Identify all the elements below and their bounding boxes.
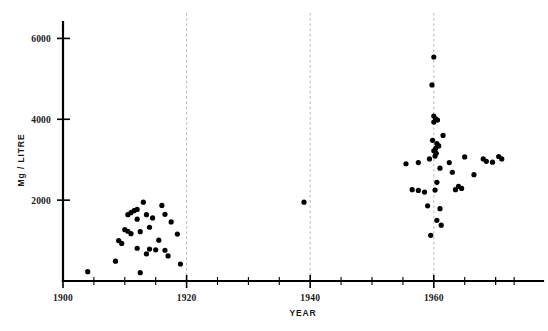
data-point	[440, 133, 445, 138]
data-point	[432, 187, 437, 192]
data-point	[434, 180, 439, 185]
data-point	[416, 160, 421, 165]
y-tick-label-2000: 2000	[31, 196, 51, 206]
data-point	[135, 246, 140, 251]
axes-lines-group	[63, 22, 543, 281]
data-point	[175, 232, 180, 237]
data-point	[162, 248, 167, 253]
x-tick-label-1960: 1960	[424, 293, 444, 303]
data-point	[147, 246, 152, 251]
data-points-group	[85, 54, 504, 275]
y-tick-label-6000: 6000	[31, 34, 51, 44]
data-point	[428, 233, 433, 238]
x-axis-tick-labels-group: 1900192019401960	[53, 293, 444, 303]
data-point	[125, 229, 130, 234]
data-point	[459, 186, 464, 191]
y-axis-title: Mg / LITRE	[16, 134, 26, 187]
data-point	[431, 120, 436, 125]
data-point	[447, 160, 452, 165]
data-point	[471, 172, 476, 177]
x-tick-label-1940: 1940	[300, 293, 320, 303]
data-point	[135, 217, 140, 222]
plot-canvas: 1900192019401960 200040006000 YEAR Mg / …	[0, 0, 548, 331]
data-point	[410, 187, 415, 192]
data-point	[159, 203, 164, 208]
data-point	[165, 253, 170, 258]
data-point	[138, 270, 143, 275]
data-point	[437, 166, 442, 171]
data-point	[85, 269, 90, 274]
data-point	[178, 261, 183, 266]
scatter-plot-figure: 1900192019401960 200040006000 YEAR Mg / …	[0, 0, 548, 331]
data-point	[434, 218, 439, 223]
data-point	[141, 200, 146, 205]
data-point	[113, 259, 118, 264]
data-point	[431, 54, 436, 59]
data-point	[425, 203, 430, 208]
gridlines-group	[187, 13, 434, 281]
data-point	[125, 212, 130, 217]
data-point	[422, 189, 427, 194]
data-point	[450, 170, 455, 175]
data-point	[427, 156, 432, 161]
data-point	[153, 247, 158, 252]
data-point	[430, 138, 435, 143]
data-point	[144, 212, 149, 217]
data-point	[416, 188, 421, 193]
data-point	[147, 225, 152, 230]
data-point	[162, 212, 167, 217]
data-point	[150, 215, 155, 220]
data-point	[116, 238, 121, 243]
data-point	[138, 229, 143, 234]
data-point	[453, 187, 458, 192]
x-tick-label-1920: 1920	[177, 293, 197, 303]
data-point	[432, 153, 437, 158]
data-point	[439, 223, 444, 228]
data-point	[301, 200, 306, 205]
x-axis-title: YEAR	[289, 308, 316, 318]
y-axis-tick-labels-group: 200040006000	[31, 34, 51, 206]
y-tick-label-4000: 4000	[31, 115, 51, 125]
data-point	[403, 161, 408, 166]
data-point	[490, 160, 495, 165]
data-point	[499, 156, 504, 161]
data-point	[462, 154, 467, 159]
data-point	[156, 238, 161, 243]
data-point	[169, 219, 174, 224]
data-point	[484, 159, 489, 164]
data-point	[144, 251, 149, 256]
x-tick-label-1900: 1900	[53, 293, 73, 303]
data-point	[437, 206, 442, 211]
data-point	[429, 82, 434, 87]
